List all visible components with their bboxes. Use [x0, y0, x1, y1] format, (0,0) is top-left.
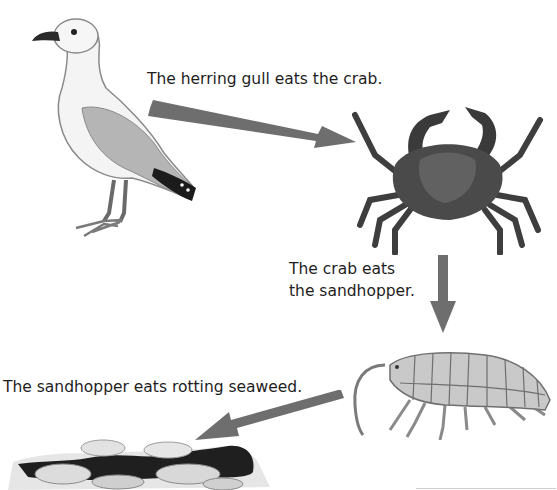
arrow-crab-to-sandhopper: [428, 255, 458, 335]
sandhopper-illustration: [345, 345, 555, 440]
caption-gull-eats-crab: The herring gull eats the crab.: [147, 69, 382, 89]
caption-crab-eats-sandhopper-line1: The crab eats: [289, 259, 395, 279]
seaweed-pebbles-illustration: [8, 432, 273, 490]
crab-illustration: [350, 105, 545, 255]
arrow-gull-to-crab: [148, 100, 358, 152]
divider-line: [416, 488, 556, 489]
caption-crab-eats-sandhopper-line2: the sandhopper.: [289, 281, 415, 301]
